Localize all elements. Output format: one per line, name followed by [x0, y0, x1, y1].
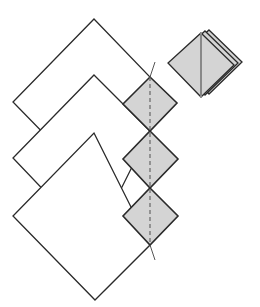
cut-line-segment-2 [150, 245, 155, 260]
diagram-canvas [0, 0, 260, 307]
origami-diagram [0, 0, 260, 307]
stacked-result-group [168, 30, 242, 97]
cut-line-segment-1 [150, 62, 155, 77]
